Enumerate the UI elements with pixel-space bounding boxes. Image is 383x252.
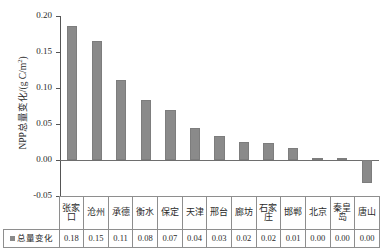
table-value-cell: 0.15 — [84, 230, 109, 248]
y-tick-label: 0.15 — [36, 46, 52, 56]
y-tick-label: 0.00 — [36, 154, 52, 164]
bar-slot — [354, 16, 379, 196]
table-header-cell: 邯郸 — [281, 197, 306, 230]
y-axis-title-suffix: ) — [18, 56, 28, 59]
city-name-label: 邢台 — [207, 208, 231, 217]
table-header-cell: 天津 — [182, 197, 207, 230]
bar-slot — [305, 16, 330, 196]
table-value-cell: 0.02 — [256, 230, 281, 248]
legend-swatch-icon — [10, 236, 15, 241]
table-header-cell: 邢台 — [207, 197, 232, 230]
bar-slot — [60, 16, 85, 196]
data-table: 张家口沧州承德衡水保定天津邢台廊坊石家庄邯郸北京秦皇岛唐山 总量变化 0.180… — [3, 196, 380, 248]
bar-slot — [330, 16, 355, 196]
table-value-cell: 0.00 — [330, 230, 355, 248]
city-name-label: 北京 — [306, 208, 330, 217]
y-tick-label: 0.10 — [36, 82, 52, 92]
table-header-cell: 北京 — [305, 197, 330, 230]
table-value-cell: 0.01 — [281, 230, 306, 248]
bar[interactable] — [116, 80, 126, 160]
table-header-cell: 衡水 — [133, 197, 158, 230]
bar[interactable] — [190, 128, 200, 160]
table-row-values: 总量变化 0.180.150.110.080.070.040.030.020.0… — [4, 230, 380, 248]
bar-slot — [281, 16, 306, 196]
bar-slot — [109, 16, 134, 196]
bar-slot — [232, 16, 257, 196]
table-header-cell: 石家庄 — [256, 197, 281, 230]
bar-series — [60, 16, 379, 196]
bar-slot — [134, 16, 159, 196]
city-name-label: 秦皇岛 — [331, 204, 355, 223]
table-header-cell: 廊坊 — [231, 197, 256, 230]
city-name-label: 廊坊 — [232, 208, 256, 217]
bar[interactable] — [239, 142, 249, 160]
legend-cell: 总量变化 — [4, 230, 60, 248]
plot-area: 0.200.150.100.050.00-0.05 — [60, 16, 379, 196]
bar[interactable] — [141, 100, 151, 160]
table-header-cell: 张家口 — [59, 197, 84, 230]
table-header-cell: 承德 — [108, 197, 133, 230]
table-header-cell: 秦皇岛 — [330, 197, 355, 230]
bar-slot — [158, 16, 183, 196]
city-name-label: 唐山 — [355, 208, 379, 217]
table-value-cell: 0.03 — [207, 230, 232, 248]
bar-slot — [85, 16, 110, 196]
table-value-cell: 0.18 — [59, 230, 84, 248]
table-header-cell: 唐山 — [355, 197, 380, 230]
table-header-cell: 保定 — [158, 197, 183, 230]
city-name-label: 天津 — [183, 208, 207, 217]
table-row-headers: 张家口沧州承德衡水保定天津邢台廊坊石家庄邯郸北京秦皇岛唐山 — [4, 197, 380, 230]
legend-label: 总量变化 — [17, 233, 53, 243]
y-axis-title-exponent: 2 — [16, 60, 23, 63]
y-tick-label: 0.05 — [36, 118, 52, 128]
bar-slot — [207, 16, 232, 196]
bar[interactable] — [92, 41, 102, 160]
city-name-label: 承德 — [109, 208, 133, 217]
data-table-wrap: 张家口沧州承德衡水保定天津邢台廊坊石家庄邯郸北京秦皇岛唐山 总量变化 0.180… — [3, 196, 380, 248]
city-name-label: 张家口 — [60, 204, 84, 223]
city-name-label: 邯郸 — [281, 208, 305, 217]
bar[interactable] — [362, 160, 372, 183]
bar[interactable] — [67, 26, 77, 160]
y-axis-title: NPP总量变化/(g C/m2) — [15, 23, 29, 183]
bar[interactable] — [337, 158, 347, 160]
bar[interactable] — [165, 110, 175, 160]
table-value-cell: 0.08 — [133, 230, 158, 248]
chart-figure: NPP总量变化/(g C/m2) 0.200.150.100.050.00-0.… — [0, 0, 383, 252]
table-header-cell: 沧州 — [84, 197, 109, 230]
y-tick-label: 0.20 — [36, 10, 52, 20]
bar[interactable] — [214, 136, 224, 160]
city-name-label: 保定 — [158, 208, 182, 217]
city-name-label: 衡水 — [133, 208, 157, 217]
bar[interactable] — [312, 158, 322, 160]
bar-slot — [183, 16, 208, 196]
table-value-cell: 0.11 — [108, 230, 133, 248]
table-value-cell: 0.02 — [231, 230, 256, 248]
city-name-label: 石家庄 — [257, 204, 281, 223]
table-value-cell: 0.07 — [158, 230, 183, 248]
city-name-label: 沧州 — [84, 208, 108, 217]
table-value-cell: 0.00 — [305, 230, 330, 248]
bar-slot — [256, 16, 281, 196]
bar[interactable] — [263, 143, 273, 160]
legend-spacer-cell — [4, 197, 60, 230]
y-axis-title-text: NPP总量变化/(g C/m — [18, 63, 28, 150]
table-value-cell: 0.00 — [355, 230, 380, 248]
bar[interactable] — [288, 148, 298, 160]
table-value-cell: 0.04 — [182, 230, 207, 248]
